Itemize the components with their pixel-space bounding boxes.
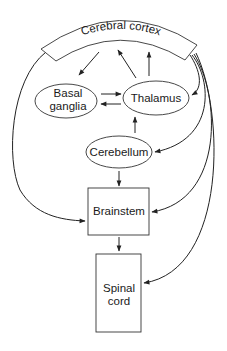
thalamus-label: Thalamus: [131, 92, 182, 104]
basal-ganglia-label-line2: ganglia: [49, 100, 87, 112]
motor-system-diagram: Cerebral cortex Basal ganglia Thalamus C…: [0, 0, 227, 351]
node-spinal-cord: Spinal cord: [96, 254, 141, 332]
edge-cortex-to-basal-ganglia: [79, 52, 99, 75]
basal-ganglia-label-line1: Basal: [54, 87, 83, 99]
edge-thalamus-to-cortex-1: [118, 50, 136, 78]
node-cerebral-cortex: Cerebral cortex: [41, 19, 197, 61]
node-cerebellum: Cerebellum: [86, 136, 152, 168]
node-thalamus: Thalamus: [123, 81, 189, 115]
spinal-cord-label-line1: Spinal: [103, 282, 135, 294]
brainstem-label: Brainstem: [93, 205, 145, 217]
node-brainstem: Brainstem: [88, 188, 149, 235]
spinal-cord-label-line2: cord: [108, 295, 130, 307]
edge-cortex-to-brainstem-left: [13, 52, 85, 221]
cerebellum-label: Cerebellum: [90, 146, 149, 158]
node-basal-ganglia: Basal ganglia: [35, 84, 97, 118]
